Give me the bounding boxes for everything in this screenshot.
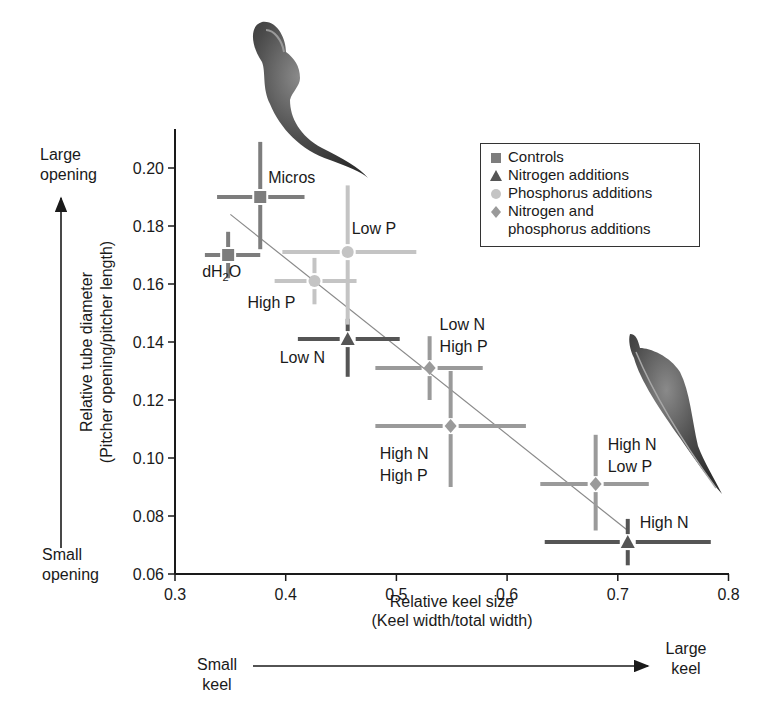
diamond-marker-icon <box>489 205 503 219</box>
data-point-label: High N <box>380 445 429 462</box>
legend-item: Nitrogen and phosphorus additions <box>489 202 691 238</box>
scatter-chart: 0.30.40.50.60.70.8 0.060.080.100.120.140… <box>0 0 770 714</box>
data-point-label: Low P <box>352 220 396 237</box>
small-keel-label-2: keel <box>202 676 231 693</box>
y-tick-label: 0.16 <box>133 276 164 293</box>
data-point: dH2O <box>202 232 260 283</box>
large-keel-label-2: keel <box>671 660 700 677</box>
y-axis-title: Relative tube diameter (Pitcher opening/… <box>78 241 115 463</box>
legend-item: Nitrogen additions <box>489 166 691 184</box>
data-point-label: Low N <box>280 349 325 366</box>
data-point: Low P <box>282 185 416 324</box>
small-keel-label-1: Small <box>197 656 237 673</box>
data-point: High N <box>545 514 711 565</box>
x-axis-title-line2: (Keel width/total width) <box>372 612 533 629</box>
x-tick-label: 0.7 <box>607 586 629 603</box>
legend-label: Nitrogen and phosphorus additions <box>508 202 651 238</box>
data-point-label: dH2O <box>202 263 241 283</box>
y-tick-label: 0.06 <box>133 566 164 583</box>
square-marker-icon <box>489 151 503 165</box>
large-keel-label-1: Large <box>666 640 707 657</box>
large-opening-label-1: Large <box>40 146 81 163</box>
y-tick-label: 0.10 <box>133 450 164 467</box>
y-tick-label: 0.20 <box>133 160 164 177</box>
legend-item: Controls <box>489 148 691 166</box>
y-axis-title-line2: (Pitcher opening/pitcher length) <box>98 241 115 463</box>
legend-label: Controls <box>508 148 564 166</box>
y-axis-title-line1: Relative tube diameter <box>78 271 95 432</box>
x-axis-title-line1: Relative keel size <box>390 593 515 610</box>
legend-label: Nitrogen additions <box>508 166 629 184</box>
legend-label: Phosphorus additions <box>508 184 652 202</box>
data-point: Low NHigh P <box>375 316 487 400</box>
small-opening-label-1: Small <box>42 546 82 563</box>
circle-marker-icon <box>489 187 503 201</box>
data-point-label: High P <box>247 294 295 311</box>
y-tick-label: 0.12 <box>133 392 164 409</box>
data-point-label: Micros <box>268 169 315 186</box>
data-point-label: High P <box>380 467 428 484</box>
data-point: High P <box>247 258 356 311</box>
small-opening-label-2: opening <box>42 566 99 583</box>
y-tick-label: 0.18 <box>133 218 164 235</box>
data-point: High NHigh P <box>375 371 526 487</box>
y-axis-ticks: 0.060.080.100.120.140.160.180.20 <box>133 160 175 583</box>
x-tick-label: 0.3 <box>164 586 186 603</box>
y-tick-label: 0.08 <box>133 508 164 525</box>
data-point: Micros <box>217 142 315 249</box>
pitcher-plant-illustration-large-opening <box>253 22 368 178</box>
x-tick-label: 0.4 <box>275 586 297 603</box>
data-point-label: High N <box>608 436 657 453</box>
x-tick-label: 0.8 <box>717 586 739 603</box>
data-point-label: High P <box>440 338 488 355</box>
legend-item: Phosphorus additions <box>489 184 691 202</box>
triangle-marker-icon <box>489 169 503 183</box>
data-point-label: Low N <box>440 316 485 333</box>
large-opening-label-2: opening <box>40 166 97 183</box>
y-tick-label: 0.14 <box>133 334 164 351</box>
data-point-label: Low P <box>608 458 652 475</box>
chart-legend: ControlsNitrogen additionsPhosphorus add… <box>480 143 700 247</box>
data-point-label: High N <box>640 514 689 531</box>
